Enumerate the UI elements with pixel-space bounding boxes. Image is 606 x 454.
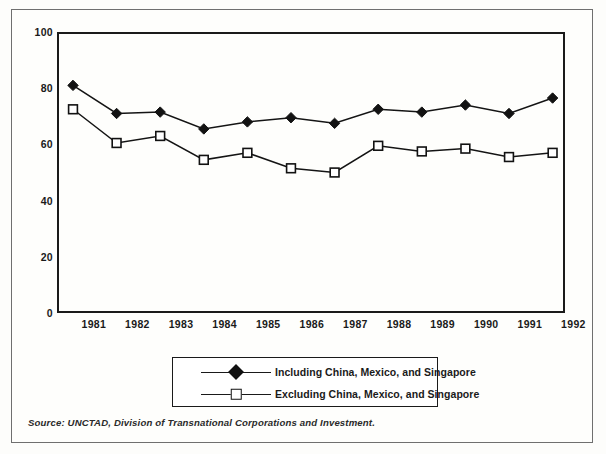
y-tick-label-20: 20 xyxy=(17,252,53,263)
x-tick-label-1985: 1985 xyxy=(256,319,281,330)
y-tick-label-80: 80 xyxy=(17,83,53,94)
data-point-square xyxy=(548,148,557,157)
data-point-diamond xyxy=(111,108,121,118)
x-tick-label-1989: 1989 xyxy=(430,319,455,330)
x-tick-label-1984: 1984 xyxy=(212,319,237,330)
x-tick-label-1983: 1983 xyxy=(169,319,194,330)
data-point-diamond xyxy=(242,117,252,127)
data-point-square xyxy=(156,132,165,141)
data-point-square xyxy=(417,147,426,156)
data-point-diamond xyxy=(199,124,209,134)
legend-label-including: Including China, Mexico, and Singapore xyxy=(275,366,476,378)
data-point-diamond xyxy=(547,93,557,103)
data-point-square xyxy=(69,105,78,114)
open-square-icon xyxy=(231,389,242,400)
data-point-diamond xyxy=(329,118,339,128)
legend-entry-including: Including China, Mexico, and Singapore xyxy=(173,361,437,383)
data-point-square xyxy=(287,164,296,173)
chart-figure: 020406080100 198119821983198419851986198… xyxy=(0,0,606,454)
data-point-square xyxy=(330,168,339,177)
y-axis-tick-labels: 020406080100 xyxy=(11,0,53,454)
series-line-excluding xyxy=(73,109,553,172)
x-tick-label-1986: 1986 xyxy=(300,319,325,330)
data-point-square xyxy=(374,141,383,150)
data-point-square xyxy=(461,144,470,153)
x-axis-tick-labels: 1981198219831984198519861987198819891990… xyxy=(0,319,606,335)
chart-legend: Including China, Mexico, and Singapore E… xyxy=(172,357,438,407)
x-tick-label-1992: 1992 xyxy=(561,319,586,330)
series-line-including xyxy=(73,85,553,129)
data-point-diamond xyxy=(373,104,383,114)
x-tick-label-1988: 1988 xyxy=(387,319,412,330)
data-point-diamond xyxy=(286,113,296,123)
legend-label-excluding: Excluding China, Mexico, and Singapore xyxy=(275,388,479,400)
y-tick-label-100: 100 xyxy=(17,27,53,38)
y-tick-label-60: 60 xyxy=(17,139,53,150)
x-tick-label-1987: 1987 xyxy=(343,319,368,330)
data-point-square xyxy=(112,139,121,148)
source-note: Source: UNCTAD, Division of Transnationa… xyxy=(28,417,375,428)
x-tick-label-1981: 1981 xyxy=(82,319,107,330)
data-point-diamond xyxy=(460,100,470,110)
y-tick-label-40: 40 xyxy=(17,196,53,207)
x-tick-label-1990: 1990 xyxy=(474,319,499,330)
data-point-square xyxy=(199,155,208,164)
data-point-diamond xyxy=(504,108,514,118)
x-tick-label-1991: 1991 xyxy=(518,319,543,330)
data-point-square xyxy=(505,153,514,162)
plot-series-canvas xyxy=(57,32,565,313)
data-point-diamond xyxy=(155,107,165,117)
legend-swatch-including xyxy=(197,364,275,380)
legend-swatch-excluding xyxy=(197,386,275,402)
legend-entry-excluding: Excluding China, Mexico, and Singapore xyxy=(173,383,437,405)
data-point-diamond xyxy=(417,107,427,117)
x-tick-label-1982: 1982 xyxy=(125,319,150,330)
y-tick-label-0: 0 xyxy=(17,308,53,319)
filled-diamond-icon xyxy=(228,364,244,380)
data-point-square xyxy=(243,148,252,157)
data-point-diamond xyxy=(68,80,78,90)
